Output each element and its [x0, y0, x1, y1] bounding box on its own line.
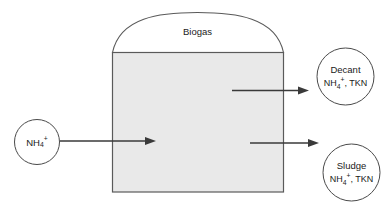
diagram-svg: Biogas NH4+ Decant NH4+, TKN Sludge: [0, 0, 391, 203]
sludge-formula-base: NH: [330, 174, 343, 184]
sludge-formula-subscript: 4: [343, 178, 347, 185]
decant-arrow-head: [298, 87, 309, 95]
influent-formula-subscript: 4: [40, 141, 44, 148]
sludge-formula-rest: , TKN: [350, 174, 373, 184]
sludge-node-circle: [323, 144, 380, 201]
sludge-arrow-head: [308, 139, 319, 147]
sludge-node-formula: NH4+, TKN: [330, 172, 374, 185]
sludge-node-title: Sludge: [337, 160, 367, 171]
diagram-canvas: Biogas NH4+ Decant NH4+, TKN Sludge: [0, 0, 391, 203]
digester-tank-body: [113, 53, 284, 193]
influent-formula-superscript: +: [44, 135, 48, 142]
decant-node-circle: [317, 48, 374, 105]
decant-node-formula: NH4+, TKN: [324, 76, 368, 89]
biogas-label: Biogas: [183, 26, 212, 37]
decant-node-title: Decant: [330, 64, 360, 75]
decant-formula-base: NH: [324, 78, 337, 88]
decant-formula-rest: , TKN: [344, 78, 367, 88]
influent-formula-base: NH: [26, 136, 40, 147]
decant-formula-subscript: 4: [337, 82, 341, 89]
